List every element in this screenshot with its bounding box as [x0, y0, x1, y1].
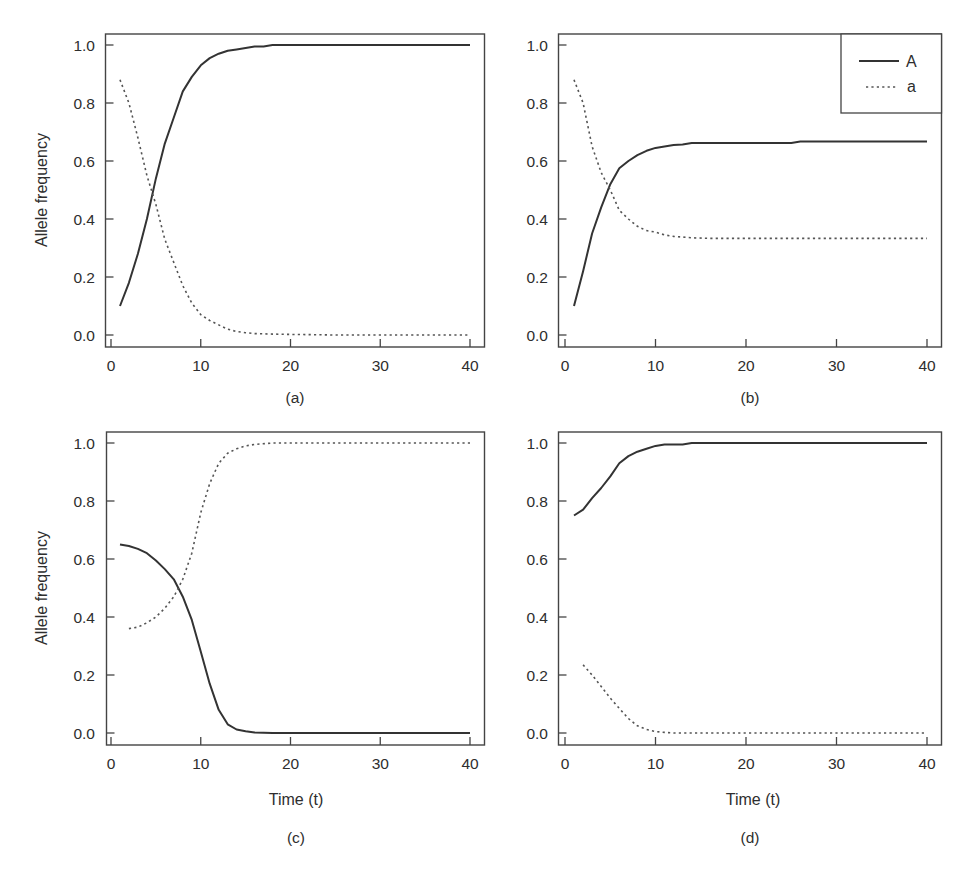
panel-caption: (a) — [286, 389, 305, 406]
x-axis: 010203040 — [107, 339, 479, 374]
y-tick-label: 0.0 — [73, 327, 95, 344]
x-tick-label: 20 — [282, 357, 300, 374]
y-tick-label: 0.2 — [73, 667, 95, 684]
y-tick-label: 1.0 — [73, 435, 95, 452]
panel-caption: (b) — [741, 389, 760, 406]
y-tick-label: 0.8 — [526, 493, 548, 510]
legend-label-A: A — [906, 53, 917, 70]
y-tick-label: 0.4 — [526, 211, 548, 228]
figure-canvas: 0.00.20.40.60.81.0 010203040 Allele freq… — [0, 0, 975, 881]
x-tick-label: 30 — [828, 755, 846, 772]
x-axis: 010203040 — [561, 737, 936, 772]
x-tick-label: 0 — [107, 357, 116, 374]
series-a-line — [583, 665, 927, 733]
y-axis: 0.00.20.40.60.81.0 — [526, 435, 566, 742]
plot-frame — [106, 34, 485, 347]
x-tick-label: 30 — [828, 357, 846, 374]
x-tick-label: 10 — [647, 357, 665, 374]
x-tick-label: 30 — [372, 357, 390, 374]
y-tick-label: 0.0 — [526, 725, 548, 742]
y-axis: 0.00.20.40.60.81.0 — [526, 37, 566, 344]
x-axis: 010203040 — [561, 339, 936, 374]
y-tick-label: 1.0 — [526, 435, 548, 452]
y-tick-label: 0.0 — [73, 725, 95, 742]
y-tick-label: 0.8 — [73, 95, 95, 112]
panel-c: 0.00.20.40.60.81.0 010203040 Allele freq… — [33, 432, 485, 846]
x-axis-label: Time (t) — [726, 791, 781, 808]
legend-box — [841, 34, 942, 113]
y-axis-label: Allele frequency — [33, 531, 50, 645]
x-tick-label: 20 — [737, 755, 755, 772]
y-tick-label: 0.2 — [526, 667, 548, 684]
y-axis-label: Allele frequency — [33, 133, 50, 247]
y-tick-label: 0.6 — [73, 551, 95, 568]
x-tick-label: 0 — [107, 755, 116, 772]
y-tick-label: 0.6 — [526, 551, 548, 568]
y-tick-label: 0.8 — [526, 95, 548, 112]
y-tick-label: 0.0 — [526, 327, 548, 344]
series-A-line — [574, 443, 927, 516]
series-A-line — [574, 142, 927, 306]
panel-caption: (c) — [287, 829, 305, 846]
x-tick-label: 20 — [282, 755, 300, 772]
x-tick-label: 30 — [372, 755, 390, 772]
legend-label-a: a — [907, 78, 916, 95]
y-tick-label: 0.8 — [73, 493, 95, 510]
x-tick-label: 10 — [192, 755, 210, 772]
x-tick-label: 40 — [461, 755, 479, 772]
series-a-line — [129, 443, 470, 629]
x-axis-label: Time (t) — [269, 791, 324, 808]
y-tick-label: 0.4 — [526, 609, 548, 626]
y-axis: 0.00.20.40.60.81.0 — [73, 435, 114, 742]
panel-a: 0.00.20.40.60.81.0 010203040 Allele freq… — [33, 34, 485, 406]
plot-frame — [559, 432, 942, 745]
y-tick-label: 0.2 — [526, 269, 548, 286]
y-tick-label: 0.2 — [73, 269, 95, 286]
x-tick-label: 40 — [461, 357, 479, 374]
y-axis: 0.00.20.40.60.81.0 — [73, 37, 113, 344]
plot-frame — [107, 432, 485, 745]
y-tick-label: 0.4 — [73, 609, 95, 626]
series-a-line — [120, 80, 470, 335]
series-A-line — [120, 45, 470, 306]
y-tick-label: 1.0 — [526, 37, 548, 54]
x-tick-label: 40 — [918, 755, 936, 772]
x-tick-label: 0 — [561, 357, 570, 374]
y-tick-label: 0.6 — [73, 153, 95, 170]
y-tick-label: 1.0 — [73, 37, 95, 54]
panel-b: 0.00.20.40.60.81.0 010203040 A a (b) — [526, 34, 941, 406]
legend: A a — [841, 34, 942, 113]
panel-d: 0.00.20.40.60.81.0 010203040 Time (t) (d… — [526, 432, 941, 846]
y-tick-label: 0.4 — [73, 211, 95, 228]
x-tick-label: 20 — [737, 357, 755, 374]
x-axis: 010203040 — [107, 737, 479, 772]
x-tick-label: 40 — [918, 357, 936, 374]
panel-caption: (d) — [741, 829, 760, 846]
series-A-line — [120, 545, 470, 734]
x-tick-label: 10 — [647, 755, 665, 772]
x-tick-label: 10 — [192, 357, 210, 374]
x-tick-label: 0 — [561, 755, 570, 772]
y-tick-label: 0.6 — [526, 153, 548, 170]
